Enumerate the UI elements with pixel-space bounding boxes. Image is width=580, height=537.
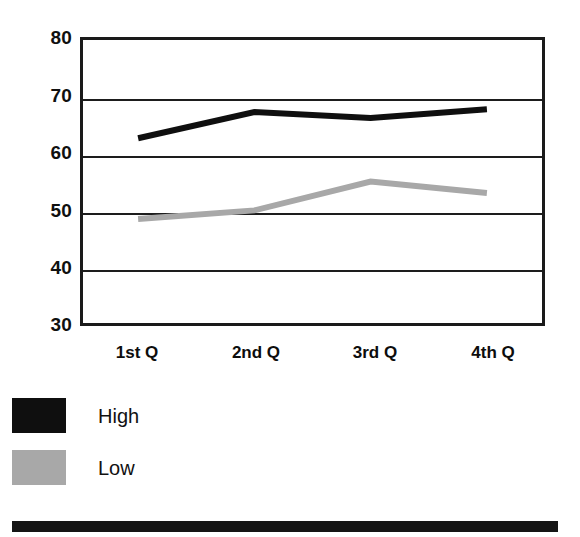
- x-axis: 1st Q 2nd Q 3rd Q 4th Q: [80, 343, 545, 369]
- x-tick-label-4th-q: 4th Q: [438, 343, 548, 363]
- gridline-50: [83, 213, 542, 215]
- plot-area: [80, 37, 545, 326]
- legend: High Low: [12, 398, 332, 502]
- legend-swatch-high-icon: [12, 398, 66, 433]
- y-tick-label-50: 50: [0, 201, 72, 220]
- legend-swatch-low-icon: [12, 450, 66, 485]
- y-tick-label-30: 30: [0, 315, 72, 334]
- legend-label-high: High: [98, 404, 139, 428]
- x-tick-label-3rd-q: 3rd Q: [320, 343, 430, 363]
- y-tick-label-40: 40: [0, 258, 72, 277]
- legend-item-high: High: [12, 398, 332, 450]
- legend-item-low: Low: [12, 450, 332, 502]
- gridline-60: [83, 156, 542, 158]
- line-chart-figure: 80 70 60 50 40 30 1st Q 2nd Q 3rd Q 4th …: [0, 0, 580, 537]
- y-tick-label-60: 60: [0, 143, 72, 162]
- gridline-40: [83, 270, 542, 272]
- y-tick-label-70: 70: [0, 86, 72, 105]
- bottom-rule: [12, 521, 558, 532]
- legend-label-low: Low: [98, 456, 135, 480]
- x-tick-label-2nd-q: 2nd Q: [201, 343, 311, 363]
- gridline-70: [83, 99, 542, 101]
- y-tick-label-80: 80: [0, 28, 72, 47]
- x-tick-label-1st-q: 1st Q: [82, 343, 192, 363]
